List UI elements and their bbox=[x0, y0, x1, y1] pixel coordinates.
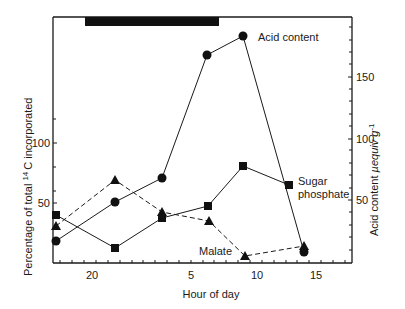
label-sugar-phosphate-1: Sugar bbox=[298, 175, 328, 187]
y-left-axis-title: Percentage of total 14C incorporated bbox=[21, 98, 34, 276]
plot-frame bbox=[53, 17, 352, 263]
series-malate bbox=[51, 175, 309, 260]
x-tick-15: 15 bbox=[310, 269, 322, 281]
svg-text:Percentage of total 14C incorp: Percentage of total 14C incorporated bbox=[21, 98, 34, 276]
label-acid-content: Acid content bbox=[258, 31, 319, 43]
x-axis-title: Hour of day bbox=[183, 288, 240, 300]
x-tick-20: 20 bbox=[86, 269, 98, 281]
x-tick-5: 5 bbox=[188, 269, 194, 281]
y-right-tick-150: 150 bbox=[356, 71, 374, 83]
y-left-tick-50: 50 bbox=[38, 197, 50, 209]
y-right-axis-title: Acid content µequiv g-1 bbox=[367, 123, 380, 236]
dark-period-bar bbox=[85, 17, 219, 26]
svg-text:Acid content µequiv g-1: Acid content µequiv g-1 bbox=[367, 123, 380, 236]
series-sugar-phosphate bbox=[52, 162, 293, 252]
x-tick-10: 10 bbox=[251, 269, 263, 281]
series-acid-content bbox=[52, 32, 309, 257]
y-left-tick-100: 100 bbox=[32, 137, 50, 149]
y-right-tick-50: 50 bbox=[356, 194, 368, 206]
label-sugar-phosphate-2: phosphate bbox=[298, 188, 349, 200]
label-malate: Malate bbox=[199, 245, 232, 257]
chart: 20 5 10 15 50 100 50 100 150 Hour of day… bbox=[0, 0, 405, 309]
